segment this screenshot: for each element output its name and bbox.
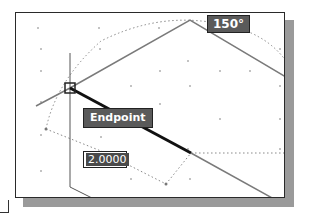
- drawing-canvas[interactable]: [16, 13, 284, 197]
- dynamic-input-field[interactable]: 2.0000: [83, 151, 127, 168]
- drawing-area[interactable]: [15, 12, 285, 198]
- ucs-corner-icon: [0, 200, 9, 213]
- grid-dots: [37, 27, 281, 180]
- angle-tooltip: 150°: [207, 15, 250, 33]
- osnap-tooltip: Endpoint: [83, 108, 153, 128]
- dynamic-input-value: 2.0000: [86, 153, 129, 166]
